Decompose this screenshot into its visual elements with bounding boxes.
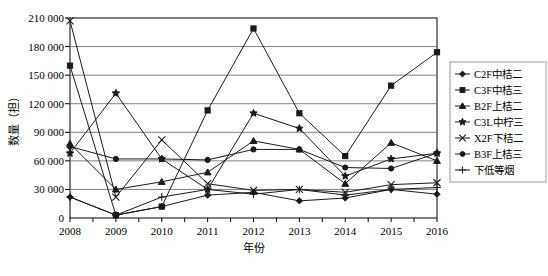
- y-tick-label: 150 000: [28, 69, 64, 81]
- marker-square: [159, 204, 164, 209]
- marker-circle: [297, 147, 302, 152]
- x-axis-tick-labels: 200820092010201120122013201420152016: [59, 225, 449, 237]
- y-tick-label: 60 000: [34, 155, 65, 167]
- legend-label: X2F下桔二: [474, 132, 523, 144]
- x-axis-title: 年份: [243, 241, 265, 254]
- y-tick-label: 120 000: [28, 98, 64, 110]
- line-chart: 数量（担） 030 00060 00090 000120 000150 0001…: [0, 0, 548, 276]
- marker-square: [460, 88, 465, 93]
- marker-square: [67, 63, 72, 68]
- y-tick-label: 180 000: [28, 41, 64, 53]
- marker-square: [343, 153, 348, 158]
- marker-square: [297, 111, 302, 116]
- chart-canvas: 数量（担） 030 00060 00090 000120 000150 0001…: [0, 0, 548, 276]
- marker-square: [205, 108, 210, 113]
- y-tick-label: 0: [59, 212, 65, 224]
- x-tick-label: 2009: [105, 225, 128, 237]
- x-tick-label: 2015: [380, 225, 403, 237]
- marker-circle: [113, 156, 118, 161]
- legend-label: C3F中桔三: [474, 84, 522, 96]
- y-axis-title-text: 数量（担）: [7, 91, 20, 146]
- marker-square: [389, 83, 394, 88]
- marker-square: [251, 26, 256, 31]
- legend-label: C3L中柠三: [474, 116, 523, 128]
- marker-circle: [343, 165, 348, 170]
- chart-legend: C2F中桔二C3F中桔三B2F上桔二C3L中柠三X2F下桔二B3F上桔三下低等烟: [450, 62, 546, 182]
- x-axis-title-text: 年份: [243, 241, 265, 254]
- y-tick-label: 210 000: [28, 12, 64, 24]
- x-tick-label: 2016: [426, 225, 449, 237]
- x-tick-label: 2012: [243, 225, 265, 237]
- legend-label: C2F中桔二: [474, 68, 522, 80]
- x-tick-label: 2010: [151, 225, 174, 237]
- marker-circle: [205, 157, 210, 162]
- x-tick-label: 2013: [288, 225, 311, 237]
- legend-label: B2F上桔二: [474, 100, 522, 112]
- marker-square: [434, 50, 439, 55]
- y-tick-label: 90 000: [34, 126, 65, 138]
- x-tick-label: 2014: [334, 225, 357, 237]
- x-tick-label: 2008: [59, 225, 82, 237]
- marker-circle: [251, 147, 256, 152]
- marker-circle: [159, 156, 164, 161]
- legend-label: 下低等烟: [474, 164, 514, 176]
- marker-circle: [460, 152, 465, 157]
- y-tick-label: 30 000: [34, 183, 65, 195]
- marker-circle: [389, 166, 394, 171]
- y-axis-title: 数量（担）: [7, 91, 20, 146]
- marker-circle: [67, 144, 72, 149]
- x-tick-label: 2011: [197, 225, 219, 237]
- marker-circle: [434, 151, 439, 156]
- legend-label: B3F上桔三: [474, 148, 522, 160]
